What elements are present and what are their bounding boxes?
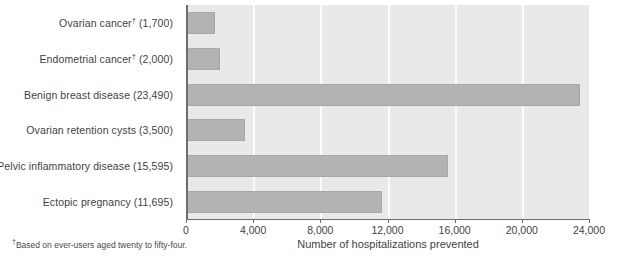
tick-label: 4,000: [240, 224, 266, 236]
category-axis-labels: Ovarian cancer† (1,700)Endometrial cance…: [0, 5, 181, 220]
bar-row: [186, 119, 589, 141]
x-axis-title: Number of hospitalizations prevented: [186, 238, 590, 250]
footnote-marker: †: [132, 51, 136, 60]
bar-chart: Ovarian cancer† (1,700)Endometrial cance…: [0, 0, 620, 264]
bar: [186, 155, 448, 177]
tick-mark: [522, 220, 523, 223]
tick-label: 16,000: [439, 224, 471, 236]
tick-mark: [455, 220, 456, 223]
bar-row: [186, 12, 589, 34]
tick-label: 12,000: [371, 224, 403, 236]
category-label: Benign breast disease (23,490): [24, 89, 173, 101]
bar: [186, 84, 580, 106]
category-label: Ovarian retention cysts (3,500): [26, 124, 173, 136]
tick-mark: [589, 220, 590, 223]
bar-row: [186, 84, 589, 106]
bar-row: [186, 191, 589, 213]
y-axis-line: [186, 5, 188, 220]
gridline: [522, 5, 524, 220]
category-label: Endometrial cancer† (2,000): [39, 53, 173, 65]
tick-mark: [320, 220, 321, 223]
x-axis-ticks: 04,0008,00012,00016,00020,00024,000: [186, 220, 590, 236]
bar: [186, 119, 245, 141]
bar: [186, 191, 382, 213]
bar-row: [186, 155, 589, 177]
bar: [186, 48, 220, 70]
category-label: Ectopic pregnancy (11,695): [43, 196, 173, 208]
tick-label: 24,000: [573, 224, 605, 236]
gridline: [253, 5, 255, 220]
category-label: Pelvic inflammatory disease (15,595): [0, 160, 173, 172]
chart-footnote: †Based on ever-users aged twenty to fift…: [12, 240, 187, 251]
gridline: [388, 5, 390, 220]
bar-row: [186, 48, 589, 70]
tick-label: 0: [183, 224, 189, 236]
plot-area: [186, 5, 589, 220]
footnote-text: Based on ever-users aged twenty to fifty…: [16, 240, 187, 250]
category-label: Ovarian cancer† (1,700): [59, 17, 173, 29]
footnote-marker: †: [132, 15, 136, 24]
tick-mark: [186, 220, 187, 223]
bar: [186, 12, 215, 34]
gridline: [320, 5, 322, 220]
tick-mark: [388, 220, 389, 223]
gridline: [455, 5, 457, 220]
tick-label: 8,000: [307, 224, 333, 236]
tick-mark: [253, 220, 254, 223]
tick-label: 20,000: [506, 224, 538, 236]
